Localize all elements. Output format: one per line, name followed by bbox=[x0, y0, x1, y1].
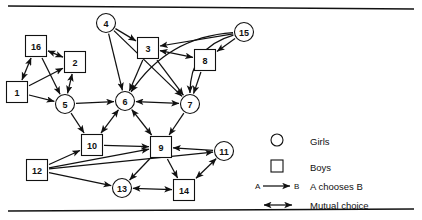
legend-choice-to-label: B bbox=[294, 182, 299, 191]
edge-8-7-choice bbox=[194, 72, 201, 94]
edge-16-5-choice bbox=[42, 58, 60, 94]
node-12-label: 12 bbox=[32, 166, 42, 176]
edge-7-9-choice bbox=[169, 113, 184, 135]
node-1[interactable]: 1 bbox=[7, 82, 28, 103]
node-15[interactable]: 15 bbox=[235, 23, 254, 42]
node-15-label: 15 bbox=[239, 28, 249, 38]
node-14[interactable]: 14 bbox=[174, 180, 195, 201]
node-6-label: 6 bbox=[122, 97, 127, 107]
node-14-label: 14 bbox=[179, 186, 189, 196]
legend-label-mutual: Mutual choice bbox=[310, 200, 369, 211]
edge-9-14-choice bbox=[167, 159, 177, 178]
node-8-label: 8 bbox=[202, 56, 207, 66]
edge-10-9-choice bbox=[104, 145, 149, 146]
node-13[interactable]: 13 bbox=[113, 179, 132, 198]
edge-4-6-choice bbox=[109, 34, 123, 91]
top-rule bbox=[8, 6, 414, 9]
edge-16-1-mutual bbox=[22, 58, 31, 80]
node-5-label: 5 bbox=[62, 100, 67, 110]
edge-3-6-choice bbox=[129, 60, 142, 91]
edge-12-13-choice bbox=[49, 173, 111, 186]
node-4[interactable]: 4 bbox=[97, 14, 116, 33]
edge-1-2-choice bbox=[29, 68, 63, 86]
legend-label-choice: A chooses B bbox=[310, 181, 363, 192]
edge-5-10-choice bbox=[71, 113, 84, 133]
node-8[interactable]: 8 bbox=[195, 50, 216, 71]
node-3[interactable]: 3 bbox=[138, 38, 159, 59]
edge-12-11-choice bbox=[49, 152, 213, 169]
node-11-label: 11 bbox=[219, 147, 229, 157]
edge-11-14-mutual bbox=[196, 159, 216, 179]
node-1-label: 1 bbox=[14, 88, 19, 98]
node-2[interactable]: 2 bbox=[65, 52, 86, 73]
sociogram-figure: 12345678910111213141516 Girls Boys A B A… bbox=[0, 0, 422, 220]
node-10[interactable]: 10 bbox=[82, 135, 103, 156]
edge-16-2-mutual bbox=[48, 51, 63, 57]
edge-5-6-choice bbox=[76, 102, 114, 104]
node-9-label: 9 bbox=[158, 143, 163, 153]
node-6[interactable]: 6 bbox=[116, 92, 135, 111]
edge-6-9-mutual bbox=[132, 110, 152, 135]
legend-circle-glyph bbox=[271, 134, 283, 146]
edge-11-9-choice bbox=[173, 148, 213, 151]
node-4-label: 4 bbox=[103, 19, 108, 29]
node-13-label: 13 bbox=[117, 184, 127, 194]
legend-label-girls: Girls bbox=[310, 136, 330, 147]
edge-1-5-choice bbox=[29, 95, 54, 101]
edge-9-13-choice bbox=[130, 159, 150, 180]
node-16[interactable]: 16 bbox=[26, 36, 47, 57]
node-12[interactable]: 12 bbox=[27, 160, 48, 181]
node-9[interactable]: 9 bbox=[151, 137, 172, 158]
node-5[interactable]: 5 bbox=[56, 95, 75, 114]
node-10-label: 10 bbox=[87, 141, 97, 151]
edge-6-10-mutual bbox=[101, 110, 118, 133]
legend-label-boys: Boys bbox=[310, 162, 331, 173]
legend-square-glyph bbox=[271, 160, 283, 172]
edge-6-7-mutual bbox=[136, 102, 179, 104]
node-7-label: 7 bbox=[187, 100, 192, 110]
node-3-label: 3 bbox=[145, 44, 150, 54]
edge-3-7-choice bbox=[157, 60, 183, 95]
node-16-label: 16 bbox=[31, 42, 41, 52]
node-11[interactable]: 11 bbox=[215, 142, 234, 161]
legend: Girls Boys A B A chooses B Mutual choice bbox=[255, 134, 369, 211]
legend-choice-from-label: A bbox=[255, 182, 261, 191]
node-7[interactable]: 7 bbox=[181, 95, 200, 114]
edge-13-14-mutual bbox=[133, 188, 172, 189]
node-2-label: 2 bbox=[72, 58, 77, 68]
edge-2-5-mutual bbox=[68, 74, 73, 93]
sociogram-canvas: 12345678910111213141516 Girls Boys A B A… bbox=[0, 0, 422, 220]
